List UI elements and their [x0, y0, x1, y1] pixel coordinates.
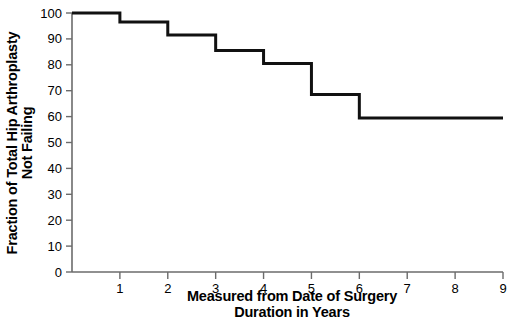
y-tick-label: 90 — [48, 31, 62, 46]
chart-plot-area: 0102030405060708090100 123456789 — [0, 0, 519, 334]
step-line-series — [72, 13, 503, 118]
y-tick-label: 0 — [55, 265, 62, 280]
y-tick-label: 80 — [48, 57, 62, 72]
step-line-path — [72, 13, 503, 118]
y-tick-label: 70 — [48, 83, 62, 98]
x-axis-label-line-2: Duration in Years — [72, 304, 512, 320]
y-tick-label: 100 — [40, 6, 62, 21]
chart-figure: Fraction of Total Hip Arthroplasty Not F… — [0, 0, 519, 334]
x-axis-label: Measured from Date of Surgery Duration i… — [72, 288, 512, 320]
y-tick-label: 40 — [48, 161, 62, 176]
y-tick-label: 10 — [48, 239, 62, 254]
y-tick-label: 50 — [48, 135, 62, 150]
y-tick-label: 20 — [48, 213, 62, 228]
x-axis-label-line-1: Measured from Date of Surgery — [72, 288, 512, 304]
y-axis: 0102030405060708090100 — [40, 6, 72, 280]
y-tick-label: 30 — [48, 187, 62, 202]
y-tick-label: 60 — [48, 109, 62, 124]
